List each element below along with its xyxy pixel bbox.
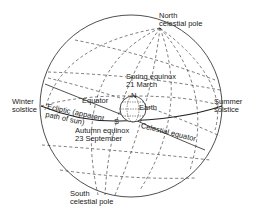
north-marker: N <box>131 92 136 100</box>
winter-solstice-label: Winter solstice <box>12 98 37 114</box>
south-celestial-pole-label: South celestial pole <box>70 190 113 206</box>
equator-label: Equator <box>82 97 108 105</box>
south-marker: S <box>114 118 119 126</box>
parallel-line <box>60 170 195 178</box>
summer-solstice-label: Summer solstice <box>214 98 242 114</box>
parallel-line <box>42 145 210 160</box>
meridian-line <box>160 28 198 170</box>
autumn-equinox-label: Autumn equinox 23 September <box>75 127 129 143</box>
north-celestial-pole-label: North celestial pole <box>159 12 202 28</box>
spring-equinox-label: Spring equinox 21 March <box>126 73 176 89</box>
earth-label: Earth <box>139 104 157 112</box>
